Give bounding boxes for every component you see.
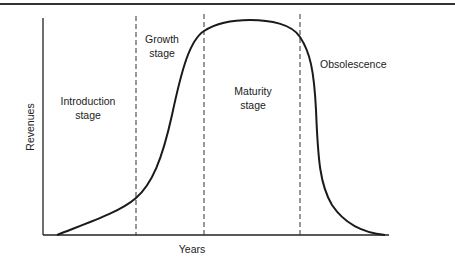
revenue-curve (57, 20, 385, 235)
stage-label-introduction-line2: stage (75, 109, 101, 121)
stage-label-obsolescence: Obsolescence (320, 58, 387, 70)
stage-label-growth-line2: stage (149, 47, 175, 59)
stage-label-maturity-line2: stage (240, 99, 266, 111)
x-axis-label: Years (179, 243, 205, 255)
stage-label-introduction-line1: Introduction (61, 95, 116, 107)
product-life-cycle-diagram: Introduction stage Growth stage Maturity… (0, 0, 455, 257)
stage-label-growth-line1: Growth (145, 33, 179, 45)
stage-label-maturity-line1: Maturity (234, 85, 272, 97)
y-axis-label: Revenues (24, 103, 36, 150)
